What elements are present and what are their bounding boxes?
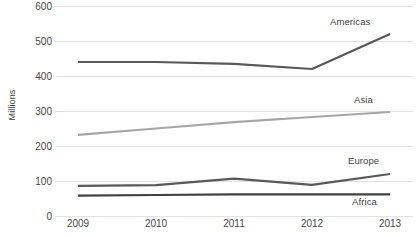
series-label-africa: Africa <box>352 196 377 207</box>
x-tick-label-2013: 2013 <box>379 218 401 229</box>
line-chart: Millions 0100200300400500600 20092010201… <box>0 0 418 237</box>
series-line-americas <box>78 34 390 69</box>
x-tick-label-2010: 2010 <box>145 218 167 229</box>
y-tick-label-500: 500 <box>6 36 52 47</box>
y-tick-label-200: 200 <box>6 141 52 152</box>
series-line-europe <box>78 174 390 186</box>
series-line-africa <box>78 194 390 195</box>
y-tick-label-0: 0 <box>6 211 52 222</box>
x-tick-label-2009: 2009 <box>67 218 89 229</box>
y-tick-label-100: 100 <box>6 176 52 187</box>
y-tick-label-300: 300 <box>6 106 52 117</box>
series-lines <box>55 6 413 216</box>
series-label-asia: Asia <box>354 94 373 105</box>
plot-area <box>55 6 413 216</box>
series-label-americas: Americas <box>330 16 370 27</box>
y-tick-label-600: 600 <box>6 1 52 12</box>
series-line-asia <box>78 112 390 135</box>
y-axis-tick-labels: 0100200300400500600 <box>0 0 52 237</box>
x-tick-label-2012: 2012 <box>301 218 323 229</box>
x-tick-label-2011: 2011 <box>223 218 245 229</box>
series-label-europe: Europe <box>348 155 379 166</box>
x-axis-tick-labels: 20092010201120122013 <box>55 216 413 236</box>
y-tick-label-400: 400 <box>6 71 52 82</box>
